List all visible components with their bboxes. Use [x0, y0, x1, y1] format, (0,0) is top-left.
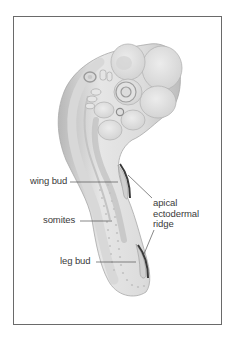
label-aer-line1: apical	[153, 198, 213, 209]
label-aer-line3: ridge	[153, 219, 213, 230]
label-apical-ectodermal-ridge: apical ectodermal ridge	[153, 198, 213, 230]
leader-aer-lower	[144, 230, 154, 254]
embryo-illustration	[0, 0, 236, 340]
label-wing-bud: wing bud	[30, 176, 67, 187]
label-somites: somites	[43, 215, 75, 226]
label-leg-bud: leg bud	[60, 256, 90, 267]
leader-aer-upper	[128, 175, 152, 198]
